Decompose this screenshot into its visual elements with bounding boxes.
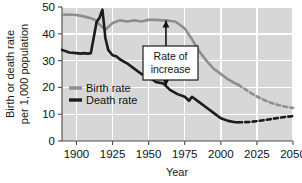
y-tick-label-40: 40 [42,28,55,40]
annotation-rate-of-increase: Rate of increase [143,46,198,80]
chart-figure: 01020304050 1900192519501975200020252050… [0,0,302,183]
birth-death-rate-line-chart: 01020304050 1900192519501975200020252050… [0,0,302,183]
y-tick-label-30: 30 [42,55,55,67]
y-tick-label-0: 0 [49,135,55,147]
x-tick-label-2050: 2050 [280,148,302,160]
x-tick-label-2000: 2000 [208,148,234,160]
y-axis-title-line2: per 1,000 population [18,24,30,124]
y-tick-label-20: 20 [42,81,55,93]
x-tick-label-1900: 1900 [64,148,90,160]
y-tick-label-50: 50 [42,1,55,13]
legend-label-death-rate: Death rate [86,94,137,106]
x-tick-label-1925: 1925 [100,148,126,160]
x-axis-ticks: 1900192519501975200020252050 [64,141,302,160]
legend-label-birth-rate: Birth rate [86,82,131,94]
annotation-label-line2: increase [151,63,191,75]
x-tick-label-1975: 1975 [172,148,198,160]
x-tick-label-2025: 2025 [244,148,270,160]
y-tick-label-10: 10 [42,108,55,120]
y-axis-ticks: 01020304050 [42,1,62,147]
y-axis-title-line1: Birth or death rate [4,30,16,118]
annotation-label-line1: Rate of [154,50,188,62]
x-tick-label-1950: 1950 [136,148,162,160]
x-axis-title: Year [166,166,189,178]
